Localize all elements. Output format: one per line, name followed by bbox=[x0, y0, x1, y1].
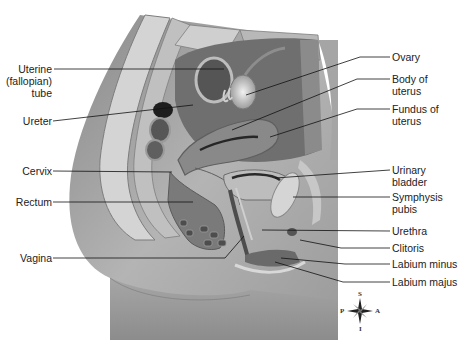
label-urinary-bladder: Urinary bladder bbox=[392, 164, 427, 188]
label-line: Body of bbox=[392, 73, 428, 85]
label-line: Rectum bbox=[16, 196, 52, 208]
label-line: uterus bbox=[392, 85, 428, 97]
label-line: bladder bbox=[392, 176, 427, 188]
label-clitoris: Clitoris bbox=[392, 242, 424, 254]
label-vagina: Vagina bbox=[20, 252, 52, 264]
label-line: uterus bbox=[392, 115, 439, 127]
label-line: Urinary bbox=[392, 164, 427, 176]
label-ureter: Ureter bbox=[23, 115, 52, 127]
label-line: Vagina bbox=[20, 252, 52, 264]
label-line: Fundus of bbox=[392, 103, 439, 115]
label-line: Labium majus bbox=[392, 276, 457, 288]
label-line: Ureter bbox=[23, 115, 52, 127]
label-line: tube bbox=[6, 87, 52, 99]
compass-superior: S bbox=[358, 290, 362, 298]
label-line: (fallopian) bbox=[6, 75, 52, 87]
label-line: Symphysis bbox=[392, 191, 443, 203]
compass-rose-icon bbox=[347, 298, 373, 324]
label-cervix: Cervix bbox=[22, 165, 52, 177]
label-rectum: Rectum bbox=[16, 196, 52, 208]
label-line: Uterine bbox=[6, 63, 52, 75]
label-line: Urethra bbox=[392, 225, 427, 237]
compass-posterior: P bbox=[340, 307, 344, 315]
label-line: Cervix bbox=[22, 165, 52, 177]
label-line: Labium minus bbox=[392, 258, 457, 270]
compass-anterior: A bbox=[375, 307, 380, 315]
label-symphysis-pubis: Symphysis pubis bbox=[392, 191, 443, 215]
label-labium-majus: Labium majus bbox=[392, 276, 457, 288]
compass-inferior: I bbox=[359, 325, 362, 333]
label-body-of-uterus: Body of uterus bbox=[392, 73, 428, 97]
pelvis-diagram: Uterine (fallopian) tube Ureter Cervix R… bbox=[0, 0, 462, 340]
label-line: Ovary bbox=[392, 51, 420, 63]
label-ovary: Ovary bbox=[392, 51, 420, 63]
label-urethra: Urethra bbox=[392, 225, 427, 237]
label-labium-minus: Labium minus bbox=[392, 258, 457, 270]
label-fundus-of-uterus: Fundus of uterus bbox=[392, 103, 439, 127]
label-line: pubis bbox=[392, 203, 443, 215]
label-uterine-tube: Uterine (fallopian) tube bbox=[6, 63, 52, 99]
label-line: Clitoris bbox=[392, 242, 424, 254]
